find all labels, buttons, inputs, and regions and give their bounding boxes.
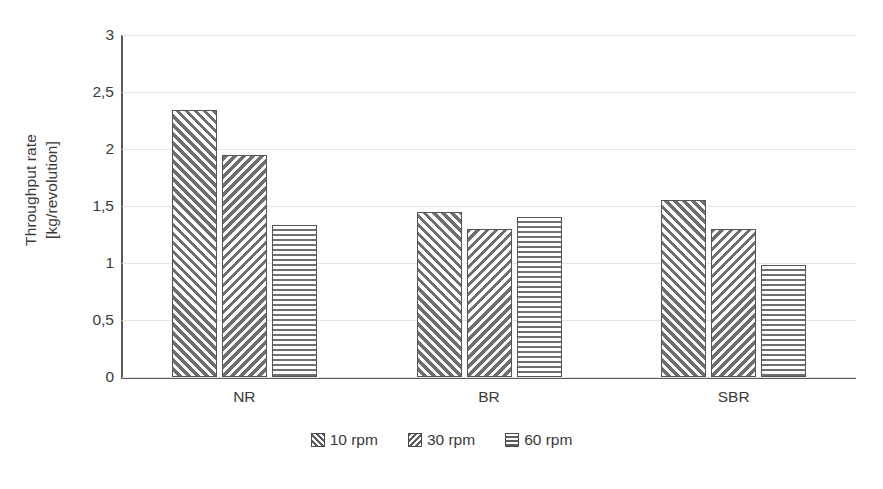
y-axis-tick-label: 0 xyxy=(74,369,114,385)
bar-sbr-30-rpm[interactable] xyxy=(711,229,756,377)
y-axis-title: Throughput rate [kg/revolution] xyxy=(14,0,68,380)
legend-item-60-rpm[interactable]: 60 rpm xyxy=(505,432,572,448)
y-axis-tick-label: 3 xyxy=(74,27,114,43)
y-axis-tick-label: 1 xyxy=(74,255,114,271)
y-axis-tick-label: 2 xyxy=(74,141,114,157)
bar-nr-10-rpm[interactable] xyxy=(172,110,217,377)
legend-swatch-icon xyxy=(408,433,422,447)
legend-swatch-icon xyxy=(311,433,325,447)
bar-br-10-rpm[interactable] xyxy=(417,212,462,377)
chart-legend: 10 rpm30 rpm60 rpm xyxy=(0,432,883,448)
y-axis-tick-label: 2,5 xyxy=(74,84,114,100)
legend-label: 30 rpm xyxy=(427,432,475,448)
gridline xyxy=(122,92,856,93)
bar-sbr-10-rpm[interactable] xyxy=(661,200,706,377)
gridline xyxy=(122,377,856,378)
y-axis-title-line-1: Throughput rate xyxy=(20,134,41,246)
x-axis-category-labels: NRBRSBR xyxy=(122,386,856,412)
legend-swatch-icon xyxy=(505,433,519,447)
x-axis-label-nr: NR xyxy=(164,386,324,408)
bar-nr-60-rpm[interactable] xyxy=(272,225,317,377)
bar-nr-30-rpm[interactable] xyxy=(222,155,267,377)
legend-label: 60 rpm xyxy=(524,432,572,448)
plot-area xyxy=(122,35,856,377)
x-axis-label-sbr: SBR xyxy=(654,386,814,408)
bar-br-60-rpm[interactable] xyxy=(517,217,562,377)
legend-item-30-rpm[interactable]: 30 rpm xyxy=(408,432,475,448)
y-axis-title-line-2: [kg/revolution] xyxy=(41,134,62,246)
gridline xyxy=(122,149,856,150)
x-axis-label-br: BR xyxy=(409,386,569,408)
bar-chart: Throughput rate [kg/revolution] 00,511,5… xyxy=(0,0,883,489)
bar-br-30-rpm[interactable] xyxy=(467,229,512,377)
y-axis-tick-label: 0,5 xyxy=(74,312,114,328)
y-axis-tick-label: 1,5 xyxy=(74,198,114,214)
gridline xyxy=(122,35,856,36)
legend-label: 10 rpm xyxy=(330,432,378,448)
legend-item-10-rpm[interactable]: 10 rpm xyxy=(311,432,378,448)
y-axis-tick-labels: 00,511,522,53 xyxy=(64,0,114,489)
bar-sbr-60-rpm[interactable] xyxy=(761,265,806,377)
